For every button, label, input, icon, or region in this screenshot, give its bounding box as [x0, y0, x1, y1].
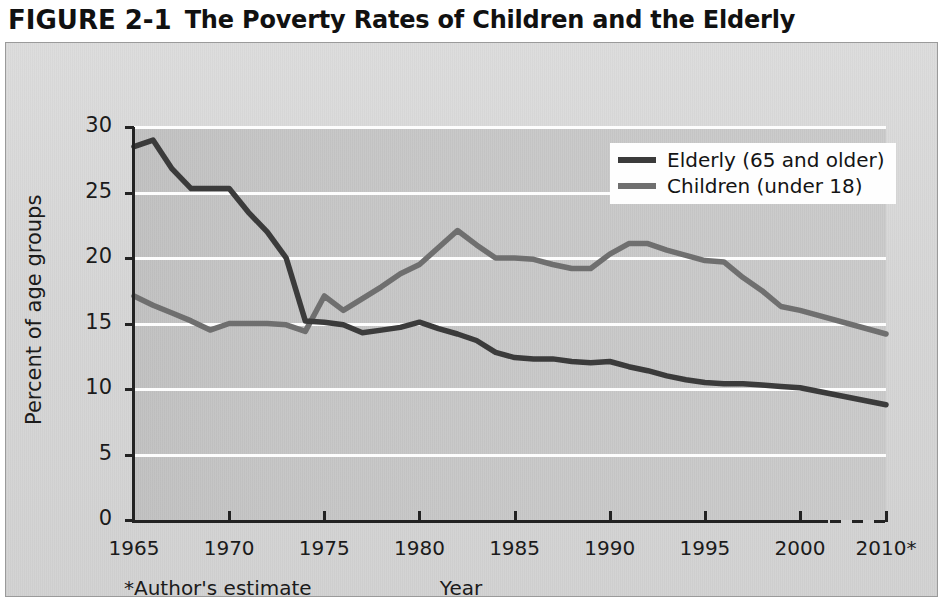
x-tick [514, 511, 517, 521]
x-tick [418, 511, 421, 521]
y-tick [125, 388, 134, 391]
x-tick-label: 1965 [79, 536, 189, 560]
y-tick [125, 454, 134, 457]
x-tick-label: 1990 [555, 536, 665, 560]
y-tick-label: 30 [72, 113, 112, 137]
y-tick-label: 5 [72, 441, 112, 465]
chart-legend: Elderly (65 and older) Children (under 1… [610, 143, 896, 204]
y-tick [125, 323, 134, 326]
legend-item-children: Children (under 18) [618, 173, 888, 199]
y-tick [125, 257, 134, 260]
y-tick [125, 192, 134, 195]
series-line-children [134, 231, 886, 335]
figure-title: FIGURE 2-1 The Poverty Rates of Children… [8, 2, 938, 38]
x-tick-label: 1975 [269, 536, 379, 560]
x-tick [704, 511, 707, 521]
x-tick-label: 2010* [831, 536, 941, 560]
y-tick [125, 519, 134, 522]
y-tick-label: 25 [72, 179, 112, 203]
y-tick-label: 20 [72, 244, 112, 268]
legend-label-elderly: Elderly (65 and older) [667, 148, 885, 172]
x-tick-label: 1970 [174, 536, 284, 560]
y-tick-label: 0 [72, 506, 112, 530]
figure-number: FIGURE 2-1 [8, 5, 172, 35]
x-tick [228, 511, 231, 521]
x-tick [885, 513, 888, 522]
x-tick-label: 1980 [364, 536, 474, 560]
x-tick [609, 511, 612, 521]
x-axis-line-solid [132, 520, 828, 523]
x-tick-label: 1985 [460, 536, 570, 560]
x-tick-label: 1995 [650, 536, 760, 560]
legend-item-elderly: Elderly (65 and older) [618, 147, 888, 173]
figure-panel: Percent of age groups 051015202530 19651… [5, 42, 938, 597]
x-axis-line-dashed [830, 520, 886, 523]
legend-swatch-elderly [618, 157, 656, 163]
x-tick [799, 511, 802, 521]
legend-label-children: Children (under 18) [667, 174, 863, 198]
y-tick-label: 10 [72, 375, 112, 399]
y-axis-title: Percent of age groups [22, 205, 46, 425]
x-tick [323, 511, 326, 521]
x-axis-title: Year [401, 576, 521, 600]
y-tick [125, 126, 134, 129]
footnote-author-estimate: *Author's estimate [124, 576, 312, 600]
figure-title-text: The Poverty Rates of Children and the El… [185, 6, 795, 34]
legend-swatch-children [618, 183, 656, 189]
y-tick-label: 15 [72, 310, 112, 334]
